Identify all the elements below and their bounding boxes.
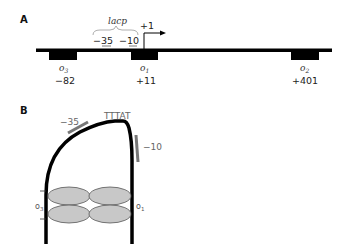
dna-loop [46, 121, 132, 244]
lacp-label: lacp [108, 16, 127, 26]
operator-o2-box [291, 51, 319, 60]
tss-arrow [144, 33, 163, 50]
o1-position: +11 [136, 75, 156, 86]
panel-a-label: A [20, 14, 28, 25]
tss-arrowhead-icon [160, 31, 166, 36]
repressor-subunit-2 [89, 187, 131, 205]
loop-o1-label: o1 [136, 202, 144, 212]
minus10-mark [136, 135, 138, 162]
tttat-label: TTTAT [103, 111, 131, 121]
minus10-loop-label: −10 [143, 142, 162, 152]
o1-label: o1 [140, 63, 149, 74]
operator-o3-box [49, 51, 77, 60]
panel-b-label: B [20, 105, 28, 116]
repressor-subunit-3 [48, 205, 90, 223]
minus10-label: −10 [119, 35, 139, 46]
o2-position: +401 [292, 75, 318, 86]
tss-label: +1 [140, 20, 154, 31]
lac-operon-diagram: A lacp −35 −10 +1 o3 o1 o2 −82 +11 +401 … [0, 0, 348, 244]
loop-o3-label: o3 [35, 202, 44, 212]
o3-position: −82 [55, 75, 75, 86]
repressor-subunit-1 [48, 187, 90, 205]
o3-label: o3 [59, 63, 68, 74]
minus35-loop-label: −35 [60, 117, 79, 127]
lacp-brace [93, 26, 138, 35]
operator-o1-box [131, 51, 158, 60]
dna-line [36, 49, 332, 53]
o2-label: o2 [300, 63, 309, 74]
repressor-subunit-4 [89, 205, 131, 223]
minus35-label: −35 [93, 35, 113, 46]
